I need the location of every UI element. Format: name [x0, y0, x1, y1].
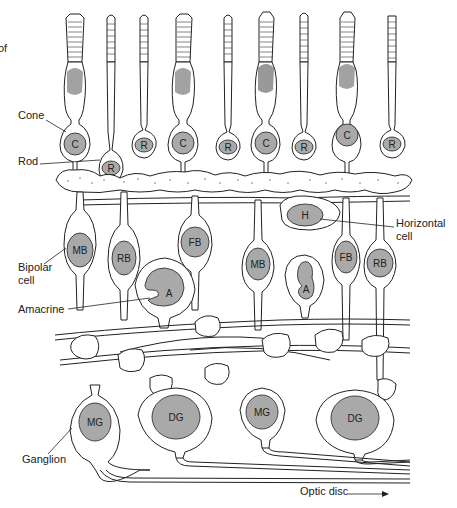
- cone-cell: C: [168, 14, 198, 178]
- nucleus-label: C: [343, 130, 350, 141]
- rod-cell: R: [132, 15, 156, 158]
- nucleus-label: FB: [340, 252, 353, 263]
- nucleus-label: RB: [117, 253, 131, 264]
- nucleus-label: MG: [87, 417, 103, 428]
- nucleus-label: R: [140, 140, 147, 151]
- rod-cell: R: [216, 15, 240, 160]
- nucleus-label: RB: [373, 258, 387, 269]
- label-bipolar-1: Bipolar: [18, 261, 53, 273]
- nucleus-label: C: [179, 138, 186, 149]
- nucleus-label: DG: [169, 412, 184, 423]
- nucleus-label: FB: [189, 237, 202, 248]
- nucleus-label: R: [300, 142, 307, 153]
- cone-cell: C: [60, 14, 90, 178]
- amacrine-layer: A A: [135, 255, 324, 328]
- nucleus-label: R: [388, 139, 395, 150]
- nucleus-label: C: [262, 138, 269, 149]
- label-ganglion: Ganglion: [22, 453, 66, 465]
- nucleus-label: A: [166, 288, 173, 299]
- nucleus-label: A: [303, 284, 310, 295]
- inner-plexiform-layer: [55, 316, 410, 400]
- label-bipolar-2: cell: [18, 274, 35, 286]
- nucleus-label: H: [301, 210, 308, 221]
- cone-cell: C: [332, 12, 361, 178]
- outer-plexiform-layer: H: [56, 170, 412, 230]
- nucleus-label: R: [224, 142, 231, 153]
- nucleus-label: C: [71, 139, 78, 150]
- nucleus-label: MB: [73, 245, 88, 256]
- label-cone: Cone: [18, 109, 44, 121]
- nucleus-label: MB: [251, 259, 266, 270]
- photoreceptor-layer: C R R: [60, 12, 405, 184]
- nucleus-label: MG: [254, 407, 270, 418]
- label-amacrine: Amacrine: [18, 303, 64, 315]
- rod-cell: R: [380, 16, 405, 158]
- arrow-head-icon: [382, 491, 389, 497]
- caption-fragment: of: [0, 42, 8, 54]
- label-horizontal-2: cell: [396, 230, 413, 242]
- label-rod: Rod: [18, 155, 38, 167]
- cone-cell: C: [251, 12, 280, 178]
- ganglion-layer: MG DG MG DG: [70, 385, 410, 483]
- nucleus-label: R: [107, 163, 114, 174]
- nucleus-label: DG: [348, 413, 363, 424]
- rod-cell: R: [99, 15, 123, 184]
- label-horizontal-1: Horizontal: [396, 217, 446, 229]
- rod-cell: R: [292, 13, 316, 160]
- retina-diagram: of C R: [0, 0, 457, 508]
- label-optic-disc: Optic disc: [300, 485, 349, 497]
